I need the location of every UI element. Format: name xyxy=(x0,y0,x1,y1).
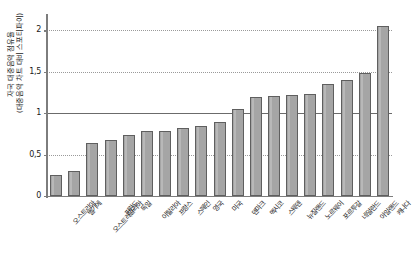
x-tick-label-포르투갈: 포르투갈 xyxy=(341,198,364,222)
bar-스페인 xyxy=(177,128,189,196)
bar-오스트리아 xyxy=(50,175,62,196)
bars-group xyxy=(47,18,392,196)
x-tick-label-네덜란드: 네덜란드 xyxy=(359,198,382,222)
y-tick-mark xyxy=(44,196,48,197)
bar-미국 xyxy=(214,122,226,197)
bar-영국 xyxy=(195,126,207,196)
x-tick-label-뉴질랜드: 뉴질랜드 xyxy=(305,198,328,222)
y-tick-label-1: 1 xyxy=(19,108,41,117)
x-tick-label-덴마크: 덴마크 xyxy=(248,198,267,217)
y-tick-mark xyxy=(44,155,48,156)
bar-벨기에 xyxy=(68,171,80,196)
bar-스웨덴 xyxy=(268,96,280,196)
y-tick-label-1,5: 1,5 xyxy=(19,67,41,76)
y-tick-mark xyxy=(44,113,48,114)
bar-덴마크 xyxy=(232,109,244,196)
y-tick-label-0,5: 0,5 xyxy=(19,150,41,159)
x-tick-label-노르웨이: 노르웨이 xyxy=(323,198,346,222)
x-axis-labels: 오스트리아벨기에오스트레일리아핀란드독일이탈리아프랑스스페인영국미국덴마크멕시코… xyxy=(47,198,392,262)
bar-포르투갈 xyxy=(322,84,334,196)
y-tick-mark xyxy=(44,72,48,73)
bar-프랑스 xyxy=(159,131,171,196)
y-tick-label-2: 2 xyxy=(19,25,41,34)
y-axis-title-line1: 자국 대중음악 점유율 xyxy=(6,31,15,96)
bar-노르웨이 xyxy=(304,94,316,196)
bar-뉴질랜드 xyxy=(286,95,298,196)
bar-핀란드 xyxy=(105,140,117,196)
y-tick-label-0: 0 xyxy=(19,191,41,200)
x-tick-label-멕시코: 멕시코 xyxy=(266,198,285,217)
x-tick-label-미국: 미국 xyxy=(228,198,243,213)
x-tick-label-스페인: 스페인 xyxy=(194,198,213,217)
x-tick-label-스웨덴: 스웨덴 xyxy=(285,198,304,217)
x-tick-label-영국: 영국 xyxy=(210,198,225,213)
y-tick-mark xyxy=(44,30,48,31)
bar-멕시코 xyxy=(250,97,262,196)
bar-캐나다 xyxy=(377,26,389,196)
bar-아일랜드 xyxy=(359,73,371,196)
bar-오스트레일리아 xyxy=(86,143,98,196)
bar-독일 xyxy=(123,135,135,196)
bar-네덜란드 xyxy=(341,80,353,196)
bar-이탈리아 xyxy=(141,131,153,196)
